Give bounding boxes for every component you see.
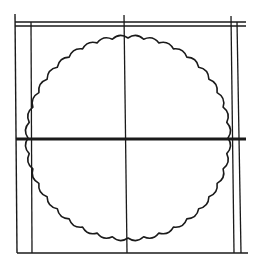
scalloped-circle-diagram [0, 0, 262, 266]
background [0, 0, 262, 266]
drawing-surface [0, 0, 262, 266]
